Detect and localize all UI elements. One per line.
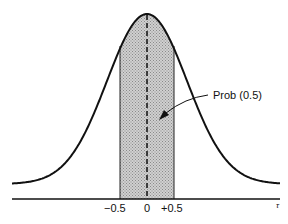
normal-curve-diagram (0, 0, 288, 224)
axis-symbol: τ (276, 202, 279, 210)
annotation-label: Prob (0.5) (213, 90, 262, 101)
tick-label-zero: 0 (144, 203, 150, 214)
tick-label-neg: −0.5 (104, 203, 126, 214)
tick-label-pos: +0.5 (161, 203, 183, 214)
